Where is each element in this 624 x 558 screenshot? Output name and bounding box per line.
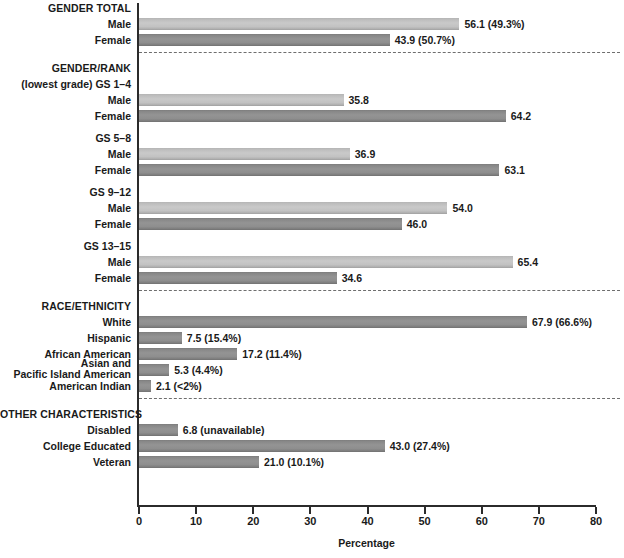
- chart-row: Female43.9 (50.7%): [0, 32, 624, 48]
- x-axis-tick-label: 0: [136, 515, 142, 527]
- chart-row: Disabled6.8 (unavailable): [0, 422, 624, 438]
- x-axis-tick-label: 80: [590, 515, 602, 527]
- x-axis-tick: [309, 507, 311, 514]
- row-label: Hispanic: [0, 330, 131, 346]
- x-axis-tick-label: 70: [533, 515, 545, 527]
- x-axis-tick: [367, 507, 369, 514]
- x-axis-tick: [481, 507, 483, 514]
- bar: [139, 94, 344, 106]
- bar-value-label: 43.0 (27.4%): [390, 438, 450, 454]
- bar: [139, 380, 151, 392]
- row-label: White: [0, 314, 131, 330]
- x-axis-tick: [138, 507, 140, 514]
- chart-row: Veteran21.0 (10.1%): [0, 454, 624, 470]
- section-heading: GENDER TOTAL: [0, 0, 131, 16]
- bar: [139, 272, 337, 284]
- row-label: American Indian: [0, 378, 131, 394]
- row-label: College Educated: [0, 438, 131, 454]
- row-label: Female: [0, 216, 131, 232]
- row-label: Disabled: [0, 422, 131, 438]
- chart-row: White67.9 (66.6%): [0, 314, 624, 330]
- bar-value-label: 7.5 (15.4%): [187, 330, 241, 346]
- bar-value-label: 63.1: [504, 162, 524, 178]
- bar-value-label: 21.0 (10.1%): [264, 454, 324, 470]
- x-axis-title: Percentage: [137, 537, 596, 549]
- section-divider: [139, 398, 620, 399]
- x-axis-tick: [595, 507, 597, 514]
- x-axis-tick-label: 20: [247, 515, 259, 527]
- section-heading: GENDER/RANK: [0, 60, 131, 76]
- chart-row: Female46.0: [0, 216, 624, 232]
- section-divider: [139, 290, 620, 291]
- bar-value-label: 35.8: [349, 92, 369, 108]
- row-label: Male: [0, 146, 131, 162]
- row-label: Male: [0, 254, 131, 270]
- row-label: Female: [0, 162, 131, 178]
- x-axis-tick-label: 60: [476, 515, 488, 527]
- bar-value-label: 34.6: [342, 270, 362, 286]
- row-label: Female: [0, 270, 131, 286]
- bar: [139, 148, 350, 160]
- bar: [139, 348, 237, 360]
- row-label: Female: [0, 108, 131, 124]
- x-axis-tick: [424, 507, 426, 514]
- bar-value-label: 67.9 (66.6%): [532, 314, 592, 330]
- bar-value-label: 54.0: [452, 200, 472, 216]
- chart-row: American Indian2.1 (<2%): [0, 378, 624, 394]
- bar: [139, 164, 499, 176]
- bar-value-label: 65.4: [518, 254, 538, 270]
- section-divider: [139, 52, 620, 53]
- bar: [139, 364, 169, 376]
- chart-row: Male36.9: [0, 146, 624, 162]
- chart-row: Male56.1 (49.3%): [0, 16, 624, 32]
- chart-row: Male54.0: [0, 200, 624, 216]
- bar-value-label: 43.9 (50.7%): [395, 32, 455, 48]
- row-label: Male: [0, 92, 131, 108]
- bar-value-label: 2.1 (<2%): [156, 378, 202, 394]
- bar-value-label: 56.1 (49.3%): [464, 16, 524, 32]
- section-heading-row: OTHER CHARACTERISTICS: [0, 406, 624, 422]
- bar-value-label: 5.3 (4.4%): [174, 362, 222, 378]
- group-subheading: GS 9–12: [0, 184, 131, 200]
- chart-row: Female63.1: [0, 162, 624, 178]
- chart-row: Hispanic7.5 (15.4%): [0, 330, 624, 346]
- bar-value-label: 17.2 (11.4%): [242, 346, 302, 362]
- bar-value-label: 36.9: [355, 146, 375, 162]
- row-label: Female: [0, 32, 131, 48]
- row-label: Male: [0, 16, 131, 32]
- group-subheading-row: GS 5–8: [0, 130, 624, 146]
- bar: [139, 332, 182, 344]
- bar-value-label: 64.2: [511, 108, 531, 124]
- section-heading: RACE/ETHNICITY: [0, 298, 131, 314]
- group-subheading: GS 13–15: [0, 238, 131, 254]
- x-axis-tick-label: 10: [190, 515, 202, 527]
- bar: [139, 34, 390, 46]
- x-axis-tick: [252, 507, 254, 514]
- group-subheading-row: GS 9–12: [0, 184, 624, 200]
- bar: [139, 202, 447, 214]
- group-subheading-row: GS 13–15: [0, 238, 624, 254]
- group-subheading: (lowest grade) GS 1–4: [0, 76, 131, 92]
- x-axis-tick: [195, 507, 197, 514]
- section-heading-row: GENDER/RANK: [0, 60, 624, 76]
- chart-row: Male35.8: [0, 92, 624, 108]
- bar: [139, 256, 513, 268]
- section-heading-row: RACE/ETHNICITY: [0, 298, 624, 314]
- chart-row: Female64.2: [0, 108, 624, 124]
- bar: [139, 18, 459, 30]
- row-label: Male: [0, 200, 131, 216]
- bar-value-label: 6.8 (unavailable): [183, 422, 265, 438]
- section-heading-row: GENDER TOTAL: [0, 0, 624, 16]
- bar: [139, 218, 402, 230]
- bar: [139, 316, 527, 328]
- bar-chart: GENDER TOTALMale56.1 (49.3%)Female43.9 (…: [0, 0, 624, 558]
- group-subheading-row: (lowest grade) GS 1–4: [0, 76, 624, 92]
- group-subheading: GS 5–8: [0, 130, 131, 146]
- x-axis-tick: [538, 507, 540, 514]
- section-heading: OTHER CHARACTERISTICS: [0, 406, 131, 422]
- chart-row: Asian andPacific Island American5.3 (4.4…: [0, 362, 624, 378]
- x-axis-tick-label: 40: [361, 515, 373, 527]
- chart-row: Female34.6: [0, 270, 624, 286]
- bar: [139, 110, 506, 122]
- bar-value-label: 46.0: [407, 216, 427, 232]
